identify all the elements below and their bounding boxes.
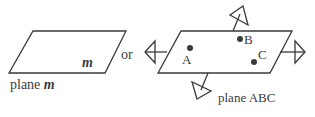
point-b (237, 36, 243, 42)
arrow-up-icon (230, 6, 248, 31)
plane-m-caption: plane m (10, 78, 55, 92)
arrow-left-icon (145, 41, 167, 63)
arrow-right-icon (280, 41, 305, 63)
point-b-label: B (244, 33, 253, 46)
or-connector: or (121, 48, 133, 62)
point-a (187, 45, 193, 51)
plane-m-shape (9, 31, 126, 73)
plane-abc-shape (158, 31, 292, 73)
arrow-down-icon (192, 73, 211, 99)
point-a-label: A (182, 53, 191, 66)
point-c-label: C (258, 48, 267, 61)
point-c (251, 59, 257, 65)
plane-m-inner-label: m (82, 56, 93, 70)
plane-word: plane (10, 77, 40, 92)
plane-m-name: m (44, 77, 55, 92)
plane-abc-caption: plane ABC (218, 91, 275, 104)
